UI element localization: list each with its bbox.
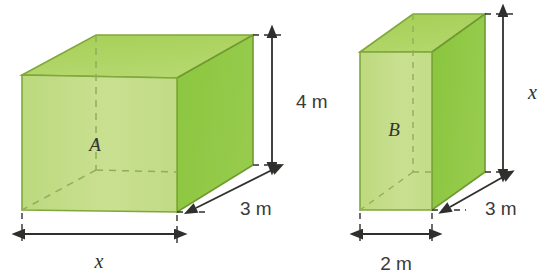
prism-b-width-label: 2 m: [380, 253, 412, 274]
prism-b-face-label: B: [388, 119, 400, 140]
prism-b-height-label: x: [527, 81, 537, 103]
prism-a-width-dimension: x: [22, 213, 177, 272]
prism-a: A: [22, 35, 253, 212]
prism-b: B: [360, 14, 485, 210]
prism-b-depth-label: 3 m: [485, 198, 517, 219]
prisms-diagram: A 4 m 3 m x: [0, 0, 551, 279]
prism-a-height-dimension: 4 m: [253, 35, 328, 165]
prism-b-height-dimension: x: [485, 14, 537, 172]
prism-a-width-label: x: [94, 250, 104, 272]
prism-a-height-label: 4 m: [296, 91, 328, 112]
prism-a-depth-label: 3 m: [240, 198, 272, 219]
prism-b-width-dimension: 2 m: [360, 213, 432, 274]
prism-a-face-label: A: [87, 134, 101, 155]
geometry-figure: A 4 m 3 m x: [0, 0, 551, 279]
